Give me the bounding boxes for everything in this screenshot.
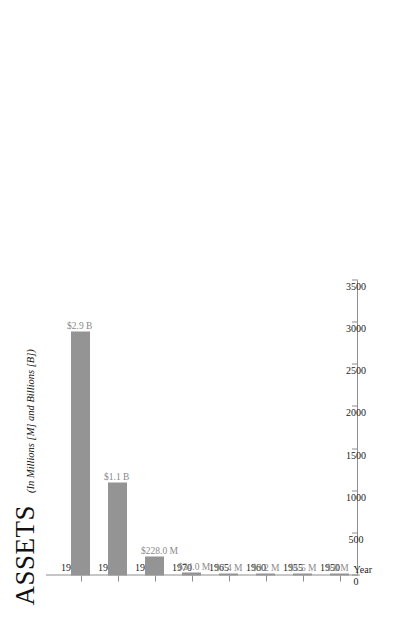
value-tick-label: 1500 — [346, 449, 366, 460]
value-tick-label: 500 — [349, 533, 364, 544]
bar[interactable] — [256, 573, 275, 575]
title-block: ASSETS (In Millions [M] and Billions [B]… — [12, 349, 39, 605]
plot-area: 0500100015002000250030003500Year1950$.8 … — [62, 280, 358, 575]
value-tick-label: 0 — [354, 575, 359, 586]
bar-value-label: $2.9 B — [67, 320, 92, 330]
bar-value-label: $7.4 M — [215, 562, 242, 572]
bar[interactable] — [330, 573, 349, 575]
category-tick — [155, 575, 156, 581]
bar[interactable] — [219, 573, 238, 575]
value-tick-label: 3500 — [346, 280, 366, 291]
category-axis-spine — [46, 574, 360, 575]
value-tick-label: 3000 — [346, 322, 366, 333]
value-tick-label: 1000 — [346, 491, 366, 502]
bar-value-label: $3.2 M — [252, 562, 279, 572]
bar-value-label: $228.0 M — [141, 545, 178, 555]
bar-value-label: $.8 M — [326, 562, 349, 572]
category-tick — [118, 575, 119, 581]
bar[interactable] — [71, 331, 90, 575]
rotated-figure-wrapper: ASSETS (In Millions [M] and Billions [B]… — [0, 0, 418, 629]
category-tick — [303, 575, 304, 581]
category-tick — [266, 575, 267, 581]
category-axis-title: Year — [354, 563, 372, 574]
category-tick — [81, 575, 82, 581]
chart-subtitle: (In Millions [M] and Billions [B]) — [25, 349, 36, 493]
bar-value-label: $1.1 B — [104, 471, 129, 481]
bar[interactable] — [108, 482, 127, 575]
category-tick — [340, 575, 341, 581]
category-tick — [229, 575, 230, 581]
bar[interactable] — [182, 572, 201, 575]
chart-title: ASSETS — [12, 504, 39, 605]
category-tick — [192, 575, 193, 581]
bar-value-label: $1.5 M — [289, 562, 316, 572]
value-tick — [352, 448, 358, 449]
bar-value-label: $34.0 M — [178, 561, 210, 571]
bar[interactable] — [293, 573, 312, 575]
value-tick-label: 2000 — [346, 406, 366, 417]
bar[interactable] — [145, 556, 164, 575]
value-tick-label: 2500 — [346, 364, 366, 375]
assets-bar-chart: ASSETS (In Millions [M] and Billions [B]… — [0, 0, 418, 629]
